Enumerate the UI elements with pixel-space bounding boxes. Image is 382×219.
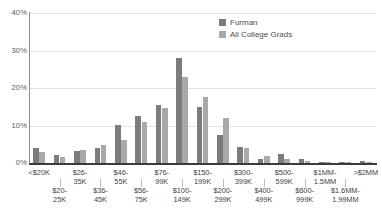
- x-tick-label: $1MM-1.5MM: [303, 169, 347, 186]
- x-tick-label-line: 299K: [201, 196, 245, 205]
- x-tick-label: $76-99K: [140, 169, 184, 186]
- x-tick-label-line: 75K: [119, 196, 163, 205]
- x-tick-label-line: 499K: [242, 196, 286, 205]
- bar: [121, 140, 127, 163]
- bar: [182, 77, 188, 163]
- bar-group: [54, 13, 66, 163]
- chart-legend: Furman All College Grads: [219, 17, 292, 39]
- bar: [95, 148, 101, 163]
- x-tick-label-line: 1.99MM: [323, 196, 367, 205]
- bar: [176, 58, 182, 163]
- x-tick-label-line: 35K: [58, 178, 102, 187]
- x-tick-label-line: >$2MM: [344, 169, 382, 178]
- legend-swatch-furman: [219, 19, 226, 26]
- y-tick-label: 0%: [1, 159, 27, 167]
- bars-layer: [29, 13, 376, 163]
- bar-group: [360, 13, 372, 163]
- bar: [244, 148, 250, 163]
- x-tick-label-line: 399K: [221, 178, 265, 187]
- y-axis-line: [29, 12, 30, 164]
- bar-group: [95, 13, 107, 163]
- bar: [39, 152, 45, 163]
- bar-group: [33, 13, 45, 163]
- bar-group: [74, 13, 86, 163]
- y-tick-label: 20%: [1, 84, 27, 92]
- x-tick-label: $200-299K: [201, 187, 245, 204]
- plot-area: [29, 13, 376, 163]
- bar: [54, 155, 60, 163]
- x-tick-connector: [345, 179, 346, 187]
- legend-label-furman: Furman: [230, 18, 258, 27]
- x-tick-label: $600-999K: [283, 187, 327, 204]
- chart-container: 0%10%20%30%40% Furman All College Grads …: [0, 0, 382, 219]
- bar: [142, 122, 148, 163]
- x-tick-label: $300-399K: [221, 169, 265, 186]
- x-tick-label: $1.6MM-1.99MM: [323, 187, 367, 204]
- bar-group: [115, 13, 127, 163]
- legend-item-furman: Furman: [219, 17, 292, 27]
- x-tick-label-line: 149K: [160, 196, 204, 205]
- x-tick-label-line: 599K: [262, 178, 306, 187]
- bar: [74, 151, 80, 163]
- x-tick-label-line: 99K: [140, 178, 184, 187]
- x-tick-label-line: <$20K: [17, 169, 61, 178]
- bar: [278, 154, 284, 163]
- legend-swatch-all-college-grads: [219, 31, 226, 38]
- bar: [162, 108, 168, 163]
- y-tick-label: 10%: [1, 122, 27, 130]
- x-tick-label-line: 199K: [181, 178, 225, 187]
- x-tick-label: $46-55K: [99, 169, 143, 186]
- x-axis-labels: <$20K$20-25K$26-35K$36-45K$46-55K$56-75K…: [29, 165, 377, 219]
- legend-label-all-college-grads: All College Grads: [230, 30, 292, 39]
- bar-group: [299, 13, 311, 163]
- x-tick-label: >$2MM: [344, 169, 382, 178]
- y-axis: 0%10%20%30%40%: [0, 13, 27, 163]
- x-tick-label: $26-35K: [58, 169, 102, 186]
- y-tick-label: 40%: [1, 9, 27, 17]
- bar: [237, 147, 243, 164]
- bar: [203, 97, 209, 163]
- x-tick-label: $36-45K: [78, 187, 122, 204]
- x-tick-label-line: 999K: [283, 196, 327, 205]
- x-tick-label: $56-75K: [119, 187, 163, 204]
- bar-group: [319, 13, 331, 163]
- x-tick-label: $20-25K: [38, 187, 82, 204]
- x-tick-label: <$20K: [17, 169, 61, 178]
- x-tick-label: $100-149K: [160, 187, 204, 204]
- bar-group: [176, 13, 188, 163]
- x-tick-label-line: 1.5MM: [303, 178, 347, 187]
- legend-item-all-college-grads: All College Grads: [219, 29, 292, 39]
- bar: [33, 148, 39, 163]
- bar: [197, 107, 203, 163]
- bar: [135, 116, 141, 163]
- bar-group: [135, 13, 147, 163]
- bar-group: [339, 13, 351, 163]
- x-tick-label: $400-499K: [242, 187, 286, 204]
- x-tick-label-line: 25K: [38, 196, 82, 205]
- bar: [101, 145, 107, 163]
- x-tick-label-line: 45K: [78, 196, 122, 205]
- x-tick-label: $150-199K: [181, 169, 225, 186]
- x-tick-label-line: 55K: [99, 178, 143, 187]
- bar: [156, 105, 162, 164]
- x-tick-label: $500-599K: [262, 169, 306, 186]
- bar: [115, 125, 121, 163]
- bar: [264, 156, 270, 163]
- bar: [223, 118, 229, 163]
- bar: [217, 135, 223, 164]
- bar: [80, 150, 86, 164]
- bar-group: [197, 13, 209, 163]
- y-tick-label: 30%: [1, 47, 27, 55]
- bar-group: [156, 13, 168, 163]
